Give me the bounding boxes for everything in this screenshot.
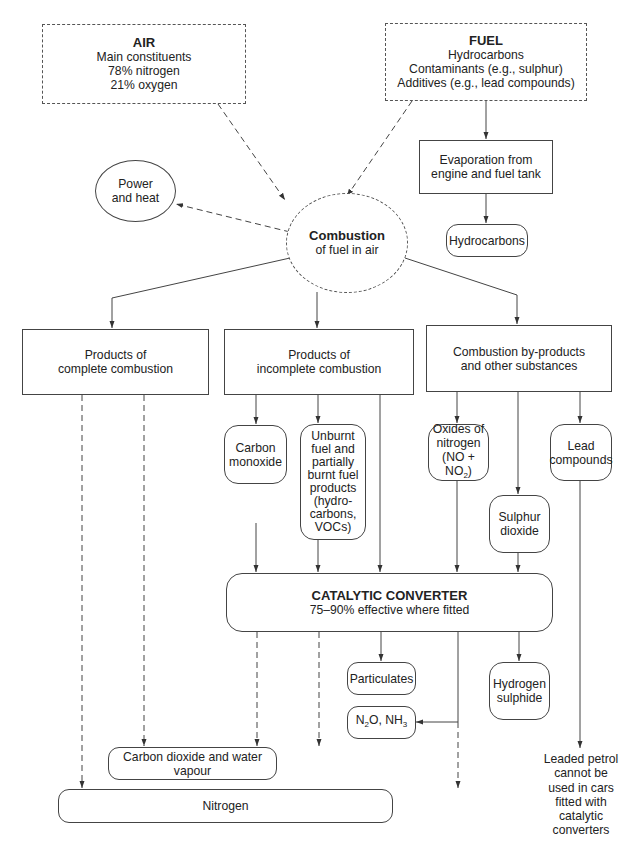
combustion-ellipse: Combustion of fuel in air — [286, 193, 408, 293]
byproducts-box: Combustion by-products and other substan… — [426, 325, 612, 392]
hydrocarbons-node: Hydrocarbons — [446, 224, 528, 257]
n2o-nh3-formula: N2O, NH3 — [356, 713, 408, 732]
nitrogen-node: Nitrogen — [58, 789, 393, 823]
evaporation-line: Evaporation from — [440, 153, 533, 167]
evaporation-line: engine and fuel tank — [431, 167, 541, 181]
note-line: fitted with — [541, 795, 621, 809]
n2o-nh3-node: N2O, NH3 — [347, 706, 416, 739]
oxides-of-nitrogen-node: Oxides of nitrogen (NO + NO2) — [428, 424, 489, 481]
power-heat-line: and heat — [112, 191, 159, 205]
air-title: AIR — [133, 36, 155, 50]
note-line: used in cars — [541, 781, 621, 795]
nh3-text: O, NH — [369, 713, 403, 727]
incomplete-line: incomplete combustion — [257, 362, 382, 376]
fuel-line: Additives (e.g., lead compounds) — [397, 76, 575, 90]
catalytic-title: CATALYTIC CONVERTER — [312, 589, 468, 603]
air-line: 21% oxygen — [110, 78, 177, 92]
hydrogen-sulphide-line: Hydrogen — [493, 677, 546, 691]
complete-line: complete combustion — [58, 362, 173, 376]
lead-compounds-node: Lead compounds — [550, 424, 612, 481]
incomplete-combustion-box: Products of incomplete combustion — [224, 329, 414, 395]
air-box: AIR Main constituents 78% nitrogen 21% o… — [42, 24, 246, 104]
unburnt-line: VOCs) — [315, 521, 352, 534]
nox-line: nitrogen — [436, 436, 480, 450]
combustion-title: Combustion — [309, 229, 385, 243]
evaporation-box: Evaporation from engine and fuel tank — [419, 140, 553, 194]
carbon-monoxide-line: monoxide — [229, 455, 282, 469]
hydrogen-sulphide-line: sulphide — [497, 691, 542, 705]
byproducts-line: Combustion by-products — [453, 345, 585, 359]
byproducts-line: and other substances — [461, 359, 578, 373]
note-line: Leaded petrol — [541, 752, 621, 766]
sulphur-dioxide-node: Sulphur dioxide — [489, 495, 550, 553]
nitrogen-label: Nitrogen — [202, 799, 248, 813]
n2o-text: N — [356, 713, 365, 727]
co2-water-label: Carbon dioxide and water vapour — [109, 750, 276, 778]
power-heat-line: Power — [118, 177, 153, 191]
catalytic-subtitle: 75–90% effective where fitted — [310, 603, 470, 617]
leaded-petrol-note: Leaded petrol cannot be used in cars fit… — [541, 752, 621, 838]
unburnt-fuel-node: Unburnt fuel and partially burnt fuel pr… — [300, 424, 366, 540]
note-line: cannot be — [541, 766, 621, 780]
carbon-monoxide-node: Carbon monoxide — [224, 425, 287, 484]
complete-line: Products of — [85, 348, 147, 362]
fuel-line: Hydrocarbons — [448, 48, 524, 62]
complete-combustion-box: Products of complete combustion — [22, 329, 209, 395]
fuel-box: FUEL Hydrocarbons Contaminants (e.g., su… — [385, 23, 587, 101]
nh3-subscript: 3 — [403, 720, 407, 729]
lead-line: compounds — [550, 453, 613, 467]
sulphur-line: dioxide — [500, 524, 539, 538]
particulates-node: Particulates — [347, 662, 416, 695]
combustion-subtitle: of fuel in air — [315, 243, 378, 257]
power-heat-ellipse: Power and heat — [95, 160, 176, 222]
carbon-monoxide-line: Carbon — [236, 441, 276, 455]
hydrogen-sulphide-node: Hydrogen sulphide — [489, 662, 550, 720]
note-line: converters — [541, 823, 621, 837]
air-line: 78% nitrogen — [108, 64, 180, 78]
hydrocarbons-label: Hydrocarbons — [449, 234, 525, 248]
air-line: Main constituents — [97, 50, 192, 64]
nox-line: Oxides of — [433, 422, 484, 436]
co2-water-node: Carbon dioxide and water vapour — [108, 747, 277, 780]
nox-formula-close: ) — [468, 464, 472, 478]
lead-line: Lead — [567, 439, 594, 453]
incomplete-line: Products of — [288, 348, 350, 362]
particulates-label: Particulates — [350, 672, 414, 686]
sulphur-line: Sulphur — [498, 510, 540, 524]
note-line: catalytic — [541, 809, 621, 823]
fuel-line: Contaminants (e.g., sulphur) — [409, 62, 563, 76]
nox-formula: (NO + NO2) — [429, 450, 488, 483]
fuel-title: FUEL — [469, 34, 503, 48]
catalytic-converter-node: CATALYTIC CONVERTER 75–90% effective whe… — [226, 573, 553, 632]
